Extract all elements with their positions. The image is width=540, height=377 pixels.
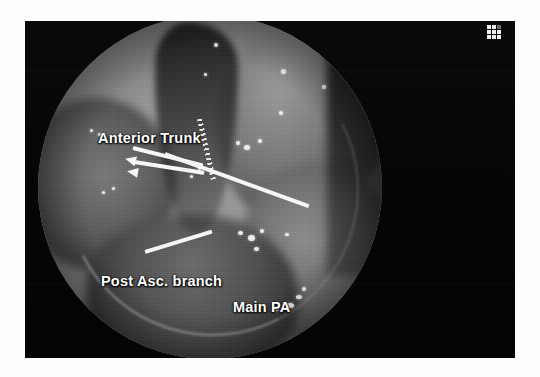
grid-cell bbox=[492, 30, 496, 34]
grid-cell bbox=[497, 30, 501, 34]
grid-cell bbox=[497, 35, 501, 39]
photo-frame: Anterior Trunk Post Asc. branch Main PA bbox=[25, 21, 515, 358]
grid-cell bbox=[487, 30, 491, 34]
page-background: Anterior Trunk Post Asc. branch Main PA bbox=[0, 0, 540, 377]
anterior-trunk-pointer-lower-head bbox=[126, 166, 138, 178]
grid-cell bbox=[487, 25, 491, 29]
label-anterior-trunk: Anterior Trunk bbox=[98, 130, 201, 146]
grid-marker-icon bbox=[487, 25, 501, 39]
endoscope-circular-view bbox=[38, 21, 382, 358]
grid-cell bbox=[487, 35, 491, 39]
label-post-asc-branch: Post Asc. branch bbox=[101, 273, 222, 289]
grid-cell bbox=[497, 25, 501, 29]
grid-cell bbox=[492, 25, 496, 29]
grid-cell bbox=[492, 35, 496, 39]
label-main-pa: Main PA bbox=[233, 299, 291, 315]
scope-vignette bbox=[38, 21, 382, 358]
